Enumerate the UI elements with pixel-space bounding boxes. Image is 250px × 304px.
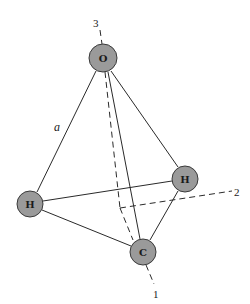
- axis-3-line: [100, 30, 102, 44]
- bond-h-left-c: [42, 210, 131, 246]
- bond-o-h-right: [111, 71, 178, 167]
- atom-hydrogen-left: H: [17, 191, 43, 217]
- axis-lower-dashed: [120, 208, 133, 240]
- bond-h-left-h-right: [43, 181, 172, 201]
- hydrogen-left-label: H: [25, 199, 34, 210]
- axis-1-line: [146, 265, 154, 284]
- molecule-diagram: O H H C 3 2 1 a: [0, 0, 250, 304]
- atom-hydrogen-right: H: [172, 166, 198, 192]
- atom-oxygen: O: [89, 44, 117, 72]
- hydrogen-right-label: H: [180, 174, 189, 185]
- axis-vertical-dashed: [105, 72, 120, 208]
- carbon-label: C: [139, 247, 147, 258]
- bond-h-right-c: [150, 191, 178, 240]
- bond-o-h-left: [37, 71, 96, 192]
- atom-carbon: C: [130, 239, 156, 265]
- axis-3-label: 3: [93, 17, 99, 29]
- axis-2-label: 2: [234, 186, 240, 198]
- oxygen-label: O: [99, 53, 108, 64]
- bond-o-c: [108, 72, 140, 239]
- axis-1-label: 1: [153, 288, 159, 300]
- edge-a-label: a: [54, 120, 60, 134]
